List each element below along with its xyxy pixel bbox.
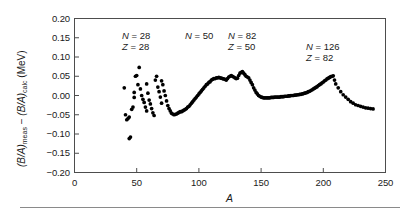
data-point [156,85,160,89]
data-point [127,115,131,119]
y-axis-tick-label: 0.00 [36,90,70,101]
data-point [155,74,159,78]
data-point [145,109,149,113]
data-point [149,102,153,106]
data-point [135,74,139,78]
data-point [339,90,343,94]
data-point [160,79,164,83]
data-point [136,83,140,87]
data-point [142,101,146,105]
data-point [334,82,338,86]
data-point [147,98,151,102]
shell-closure-n50: N = 50 [185,30,213,41]
x-axis-tick-label: 100 [179,177,219,188]
data-point [160,101,164,105]
data-point [131,105,135,109]
data-point [162,89,166,93]
shell-closure-n28: N = 28Z = 28 [122,30,150,52]
data-point [146,91,150,95]
data-point [336,86,340,90]
y-axis-tick-label: 0.10 [36,51,70,62]
x-axis-tick-label: 250 [366,177,406,188]
data-point [152,114,156,118]
data-point [129,135,133,139]
data-point [150,107,154,111]
y-axis-tick-label: 0.15 [36,32,70,43]
data-point [163,94,167,98]
y-axis-label: (B/A)meas − (B/A)calc (MeV) [16,50,28,167]
data-point [331,74,335,78]
data-point [371,107,375,111]
data-point [144,105,148,109]
y-axis-tick-label: 0.05 [36,70,70,81]
bottom-divider-rule [20,207,400,208]
data-point [139,87,143,91]
x-axis-tick-label: 150 [241,177,281,188]
data-point [132,91,136,95]
y-axis-tick-label: −0.10 [36,128,70,139]
data-point [154,78,158,82]
x-axis-tick-label: 50 [117,177,157,188]
data-point [140,94,144,98]
data-point [137,66,141,70]
shell-closure-n126: N = 126Z = 82 [306,41,340,63]
data-point [145,82,149,86]
data-point [122,86,126,90]
data-point [158,95,162,99]
data-point [333,78,337,82]
shell-closure-n82: N = 82Z = 50 [228,30,256,52]
data-point [124,113,128,117]
data-point [165,99,169,103]
data-point [161,83,165,87]
x-axis-tick-label: 200 [303,177,343,188]
y-axis-tick-label: 0.20 [36,13,70,24]
data-point-group [122,66,375,141]
x-axis-label: A [226,192,233,204]
data-point [132,96,136,100]
figure-container: (B/A)meas − (B/A)calc (MeV) A 0.200.150.… [0,0,412,222]
y-axis-tick-label: −0.15 [36,147,70,158]
x-axis-tick-label: 0 [55,177,95,188]
data-point [157,90,161,94]
y-axis-tick-label: −0.05 [36,109,70,120]
